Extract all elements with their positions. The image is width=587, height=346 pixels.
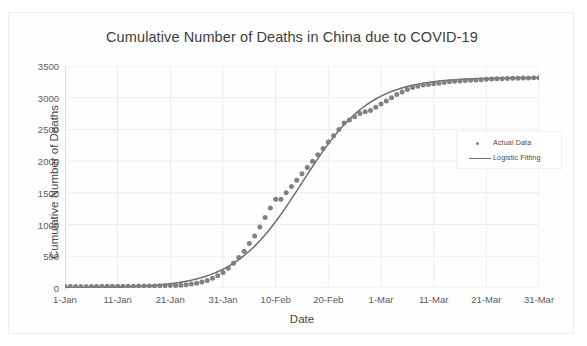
data-point (236, 255, 241, 260)
x-tick-label: 11-Jan (103, 294, 131, 305)
data-point (131, 284, 136, 288)
data-point (99, 284, 104, 288)
data-point (120, 284, 125, 288)
data-point (468, 78, 473, 83)
x-axis-title: Date (65, 313, 539, 325)
legend-label-actual-data: Actual Data (493, 138, 531, 147)
data-point (410, 85, 415, 90)
data-point (178, 283, 183, 288)
data-point (526, 75, 531, 80)
data-point (510, 76, 515, 81)
gridlines (65, 66, 539, 288)
data-point (489, 77, 494, 82)
data-point (247, 241, 252, 246)
data-point (447, 79, 452, 84)
data-point (426, 82, 431, 87)
x-tick-label: 31-Jan (208, 294, 237, 305)
data-point (142, 284, 147, 288)
x-tick-label: 20-Feb (313, 294, 343, 305)
data-point (336, 127, 341, 132)
data-point (305, 165, 310, 170)
data-point (194, 281, 199, 286)
x-tick-label: 21-Mar (471, 294, 501, 305)
data-point (257, 225, 262, 230)
data-point (515, 76, 520, 81)
data-point (452, 79, 457, 84)
x-tick-label: 11-Mar (419, 294, 448, 305)
data-point (315, 152, 320, 157)
data-point (105, 284, 110, 288)
data-point (379, 102, 384, 107)
legend-item-actual-data: Actual Data (457, 136, 561, 150)
data-point (347, 117, 352, 122)
data-point (189, 282, 194, 287)
data-point (289, 184, 294, 189)
data-point (226, 266, 231, 271)
data-point (263, 215, 268, 220)
data-point (431, 81, 436, 86)
data-point (231, 261, 236, 266)
data-point (84, 284, 89, 288)
data-point (368, 108, 373, 113)
data-point (68, 284, 73, 288)
data-point (168, 283, 173, 288)
plot-svg (65, 66, 539, 288)
data-point (205, 278, 210, 283)
data-point (300, 171, 305, 176)
data-point (73, 284, 78, 288)
x-tick-label: 1-Mar (369, 294, 394, 305)
data-point (115, 284, 120, 288)
data-point (268, 206, 273, 211)
data-point (357, 111, 362, 116)
data-point (252, 233, 257, 238)
x-tick-label: 1-Jan (53, 294, 77, 305)
data-point (342, 121, 347, 126)
data-point (273, 197, 278, 202)
data-point (505, 76, 510, 81)
data-point (436, 81, 441, 86)
legend-label-logistic-fitting: Logistic Fitting (493, 153, 541, 162)
data-point (373, 105, 378, 110)
chart-container: Cumulative Number of Deaths in China due… (8, 12, 574, 334)
data-point (89, 284, 94, 288)
data-point (463, 78, 468, 83)
data-point (331, 133, 336, 138)
data-point (221, 270, 226, 275)
y-axis-title-container: Cumulative Number of Deaths (23, 68, 39, 288)
data-point (126, 284, 131, 288)
data-point (537, 75, 540, 80)
data-point (442, 80, 447, 85)
data-point (484, 77, 489, 82)
data-point (65, 284, 68, 288)
data-point (363, 109, 368, 114)
x-tick-label: 10-Feb (261, 294, 291, 305)
data-point (500, 76, 505, 81)
data-point (284, 190, 289, 195)
data-point (184, 282, 189, 287)
data-point (352, 114, 357, 119)
legend-dot-icon (465, 136, 491, 150)
legend-item-logistic-fitting: Logistic Fitting (457, 151, 561, 165)
data-point (210, 276, 215, 281)
data-point (531, 75, 536, 80)
data-point (389, 95, 394, 100)
data-point (110, 284, 115, 288)
data-point (199, 279, 204, 284)
plot-area (65, 66, 539, 288)
data-point (310, 159, 315, 164)
chart-legend: Actual Data Logistic Fitting (456, 131, 562, 169)
x-tick-label: 31-Mar (524, 294, 554, 305)
data-point (479, 77, 484, 82)
data-point (173, 283, 178, 288)
data-point (384, 98, 389, 103)
x-tick-label: 21-Jan (156, 294, 185, 305)
data-point (278, 197, 283, 202)
data-point (405, 87, 410, 92)
data-point (326, 140, 331, 145)
data-point (136, 284, 141, 288)
data-point (94, 284, 99, 288)
data-point (394, 92, 399, 97)
data-point (242, 249, 247, 254)
data-point (294, 178, 299, 183)
data-point (494, 76, 499, 81)
